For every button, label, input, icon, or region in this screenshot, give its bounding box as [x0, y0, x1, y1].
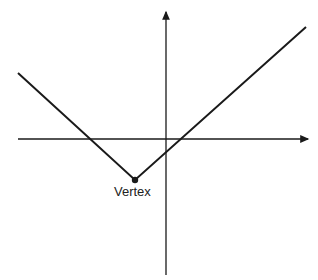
diagram-canvas: Vertex — [0, 0, 318, 280]
vertex-label: Vertex — [114, 184, 151, 199]
absolute-value-curve — [18, 27, 306, 180]
vertex-point — [132, 177, 138, 183]
graph — [0, 0, 318, 280]
